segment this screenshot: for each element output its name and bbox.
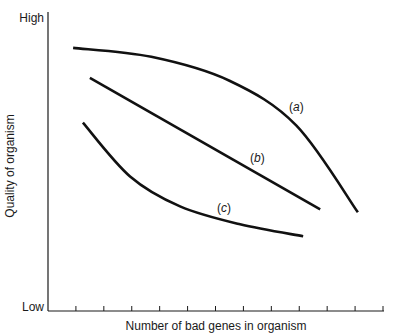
curve-label-c: (c): [217, 201, 231, 215]
chart: High Low Number of bad genes in organism…: [0, 0, 393, 334]
y-tick-label-high: High: [19, 11, 44, 25]
curve-b: [90, 78, 320, 210]
curve-a: [73, 48, 358, 212]
y-tick-label-low: Low: [22, 300, 44, 314]
x-axis-label: Number of bad genes in organism: [126, 319, 307, 333]
y-axis-label: Quality of organism: [3, 114, 17, 217]
curve-label-b: (b): [250, 151, 265, 165]
curve-label-a: (a): [289, 100, 304, 114]
